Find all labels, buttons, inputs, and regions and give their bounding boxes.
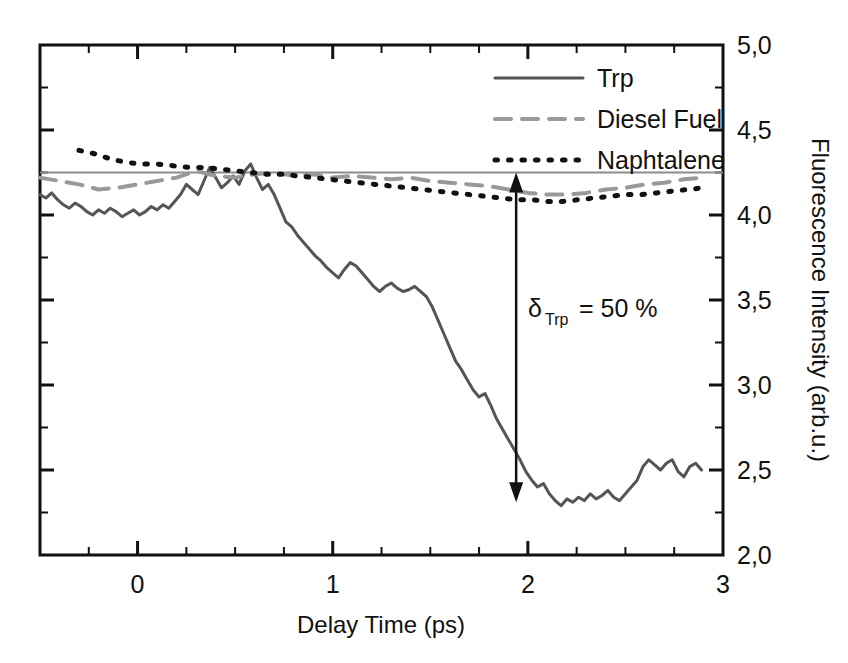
y-tick-label: 2,0 <box>737 541 772 569</box>
y-tick-label: 5,0 <box>737 31 772 59</box>
legend-label-diesel-fuel: Diesel Fuel <box>597 105 722 133</box>
x-tick-label: 0 <box>131 570 145 598</box>
annotation-delta-value: = 50 % <box>579 294 658 322</box>
background <box>0 0 848 663</box>
x-tick-label: 2 <box>521 570 535 598</box>
y-tick-label: 2,5 <box>737 456 772 484</box>
figure-container: 0123 2,02,53,03,54,04,55,0 δ Trp = 50 % … <box>0 0 848 663</box>
legend-label-naphtalene: Naphtalene <box>597 146 725 174</box>
x-tick-label: 3 <box>716 570 730 598</box>
chart-canvas: 0123 2,02,53,03,54,04,55,0 δ Trp = 50 % … <box>0 0 848 663</box>
y-tick-label: 3,0 <box>737 371 772 399</box>
y-tick-label: 4,0 <box>737 201 772 229</box>
x-tick-label: 1 <box>326 570 340 598</box>
annotation-delta-subscript: Trp <box>545 311 569 328</box>
legend-label-trp: Trp <box>597 64 634 92</box>
y-tick-label: 3,5 <box>737 286 772 314</box>
x-axis-title: Delay Time (ps) <box>297 611 465 638</box>
y-axis-title: Fluorescence Intensity (arb.u.) <box>807 138 834 462</box>
y-tick-label: 4,5 <box>737 116 772 144</box>
annotation-delta-symbol: δ <box>528 294 542 322</box>
